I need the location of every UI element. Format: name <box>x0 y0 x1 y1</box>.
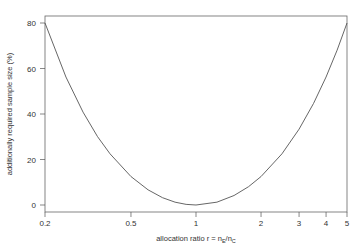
y-axis-label: additionally required sample size (%) <box>5 52 14 175</box>
x-tick-label: 4 <box>324 219 329 228</box>
chart: 020406080 0.20.512345 additionally requi… <box>0 0 363 252</box>
x-axis-label: allocation ratio r = nE/nC <box>156 234 236 244</box>
y-tick-label: 20 <box>27 156 36 165</box>
y-tick-label: 80 <box>27 19 36 28</box>
plot-frame <box>45 16 347 212</box>
x-tick-label: 0.2 <box>39 219 51 228</box>
data-curve <box>45 23 347 205</box>
x-tick-label: 2 <box>259 219 264 228</box>
x-axis: 0.20.512345 <box>39 212 349 228</box>
x-tick-label: 5 <box>345 219 350 228</box>
y-tick-label: 60 <box>27 65 36 74</box>
x-tick-label: 3 <box>297 219 302 228</box>
x-tick-label: 1 <box>194 219 199 228</box>
y-tick-label: 0 <box>32 201 37 210</box>
y-axis: 020406080 <box>27 19 45 210</box>
x-tick-label: 0.5 <box>125 219 137 228</box>
y-tick-label: 40 <box>27 110 36 119</box>
